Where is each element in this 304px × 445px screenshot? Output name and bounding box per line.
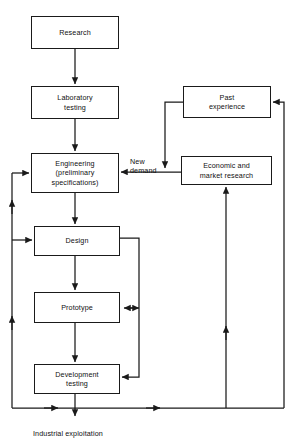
node-design[interactable]: Design: [34, 226, 120, 256]
node-design-label: Design: [66, 236, 89, 246]
node-past-experience[interactable]: Past experience: [183, 86, 271, 118]
node-past-experience-label: Past experience: [209, 93, 245, 112]
label-new-demand: New demand: [130, 147, 157, 176]
flowchart-canvas: Research Laboratory testing Engineering …: [0, 0, 304, 445]
node-laboratory-testing[interactable]: Laboratory testing: [31, 86, 119, 119]
node-economic-market-research[interactable]: Economic and market research: [181, 156, 272, 185]
node-prototype-label: Prototype: [61, 303, 93, 313]
node-economic-market-research-label: Economic and market research: [200, 161, 253, 180]
node-laboratory-testing-label: Laboratory testing: [57, 93, 92, 112]
label-industrial-exploitation-text: Industrial exploitation: [33, 429, 103, 438]
node-development-testing[interactable]: Development testing: [34, 364, 120, 394]
node-engineering-label: Engineering (preliminary specifications): [51, 159, 98, 188]
node-development-testing-label: Development testing: [55, 370, 98, 389]
node-prototype[interactable]: Prototype: [34, 292, 120, 323]
label-new-demand-text: New demand: [130, 157, 157, 176]
node-research[interactable]: Research: [31, 16, 119, 49]
node-engineering[interactable]: Engineering (preliminary specifications): [31, 153, 119, 193]
label-industrial-exploitation: Industrial exploitation: [33, 419, 103, 438]
wire-bottom-to-past: [273, 102, 284, 408]
node-research-label: Research: [59, 28, 91, 38]
